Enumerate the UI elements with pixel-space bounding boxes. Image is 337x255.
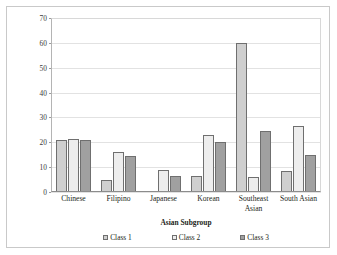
- x-axis-tick-labels: ChineseFilipinoJapaneseKoreanSoutheast A…: [51, 194, 321, 218]
- legend-item[interactable]: Class 1: [103, 233, 132, 242]
- x-tick-label: South Asian: [276, 194, 321, 218]
- plot-area: 010203040506070: [51, 18, 321, 192]
- chart-figure: Percentage of Class 010203040506070 Chin…: [6, 6, 330, 248]
- chart-legend: Class 1Class 2Class 3: [51, 233, 321, 242]
- legend-label: Class 3: [247, 233, 269, 242]
- y-tick-label: 0: [43, 188, 47, 197]
- legend-item[interactable]: Class 3: [240, 233, 269, 242]
- x-tick-label: Chinese: [51, 194, 96, 218]
- y-tick-label: 60: [40, 38, 47, 47]
- y-tick-label: 70: [40, 14, 47, 23]
- y-tick-label: 20: [40, 138, 47, 147]
- legend-swatch-icon: [103, 235, 108, 240]
- y-tick-label: 40: [40, 88, 47, 97]
- x-tick-label: Korean: [186, 194, 231, 218]
- y-tick-label: 30: [40, 113, 47, 122]
- legend-swatch-icon: [172, 235, 177, 240]
- x-tick-label: Filipino: [96, 194, 141, 218]
- y-tick-mark: [49, 192, 51, 193]
- x-tick-label: Japanese: [141, 194, 186, 218]
- legend-label: Class 2: [179, 233, 201, 242]
- legend-item[interactable]: Class 2: [172, 233, 201, 242]
- legend-swatch-icon: [240, 235, 245, 240]
- y-tick-label: 10: [40, 163, 47, 172]
- x-tick-label: Southeast Asian: [231, 194, 276, 218]
- legend-label: Class 1: [110, 233, 132, 242]
- plot-frame: [51, 18, 321, 192]
- y-tick-label: 50: [40, 63, 47, 72]
- gridline: [51, 192, 321, 193]
- x-axis-title: Asian Subgroup: [51, 218, 321, 227]
